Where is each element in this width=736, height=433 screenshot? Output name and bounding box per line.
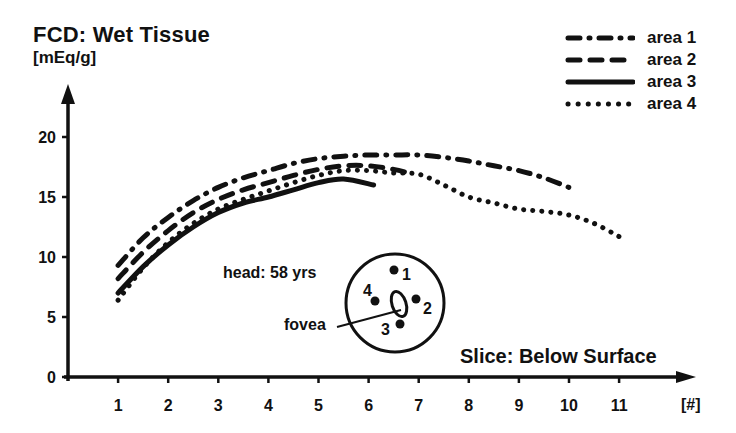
y-tick-label: 15	[38, 189, 56, 206]
x-tick-label: 9	[514, 397, 523, 414]
fovea-inset-diagram: 1 2 3 4	[337, 254, 444, 352]
plot-area: 051015201234567891011 1 2 3 4	[0, 0, 736, 433]
series-line-area-1	[118, 155, 569, 266]
fovea-label: fovea	[284, 316, 326, 334]
x-tick-label: 2	[164, 397, 173, 414]
x-tick-label: 10	[560, 397, 578, 414]
x-tick-label: 3	[214, 397, 223, 414]
x-tick-label: 5	[314, 397, 323, 414]
y-tick-label: 5	[47, 309, 56, 326]
x-tick-label: 6	[364, 397, 373, 414]
inset-label-3: 3	[381, 321, 390, 338]
x-axis-arrow-icon	[676, 371, 696, 383]
inset-label-2: 2	[423, 300, 432, 317]
inset-label-4: 4	[363, 282, 372, 299]
x-axis-label: Slice: Below Surface	[460, 345, 657, 368]
x-axis-unit: [#]	[681, 396, 701, 414]
series-line-area-4	[118, 170, 619, 300]
x-tick-label: 4	[264, 397, 273, 414]
y-tick-label: 0	[47, 369, 56, 386]
area-3-dot	[396, 320, 405, 329]
y-tick-label: 20	[38, 129, 56, 146]
x-tick-label: 7	[414, 397, 423, 414]
data-series	[118, 155, 619, 300]
y-tick-label: 10	[38, 249, 56, 266]
y-axis-arrow-icon	[61, 84, 75, 104]
area-2-dot	[412, 295, 421, 304]
fovea-outline	[388, 289, 409, 318]
x-tick-label: 11	[611, 397, 628, 414]
x-tick-label: 8	[464, 397, 473, 414]
inset-title: head: 58 yrs	[223, 264, 316, 282]
area-1-dot	[390, 266, 399, 275]
x-tick-label: 1	[114, 397, 123, 414]
inset-label-1: 1	[402, 266, 411, 283]
